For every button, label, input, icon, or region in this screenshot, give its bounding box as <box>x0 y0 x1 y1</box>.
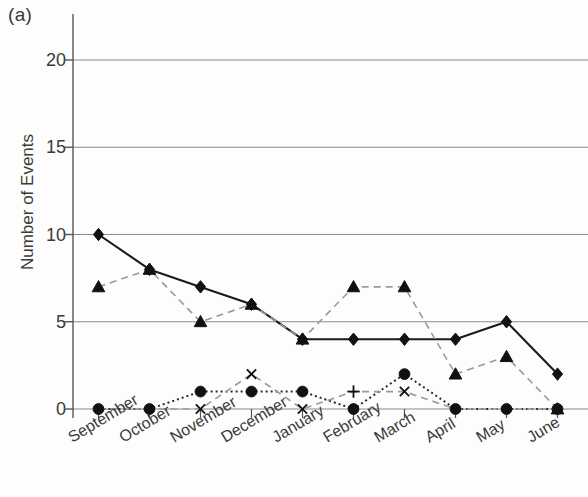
series-diamond-point-0 <box>93 228 103 240</box>
line-series-circle <box>99 374 558 409</box>
series-diamond-point-5 <box>348 333 358 345</box>
gridlines <box>73 60 588 409</box>
series-diamond-point-6 <box>399 333 409 345</box>
series-triangle-point-8 <box>500 350 513 361</box>
series-plus-point-5 <box>347 385 359 397</box>
series-diamond-point-2 <box>195 281 205 293</box>
series-circle-point-7 <box>450 404 461 415</box>
series-circle-point-6 <box>399 369 410 380</box>
series-circle-point-3 <box>246 386 257 397</box>
series-plus-point-3 <box>247 369 256 378</box>
series-circle-point-2 <box>195 386 206 397</box>
line-series-diamond <box>99 235 558 375</box>
series-circle-point-4 <box>297 386 308 397</box>
series-circle-point-8 <box>501 404 512 415</box>
axis-lines <box>64 14 73 418</box>
series-triangle-point-5 <box>347 281 360 292</box>
line-series-plus <box>99 374 558 409</box>
series-diamond-point-7 <box>450 333 460 345</box>
